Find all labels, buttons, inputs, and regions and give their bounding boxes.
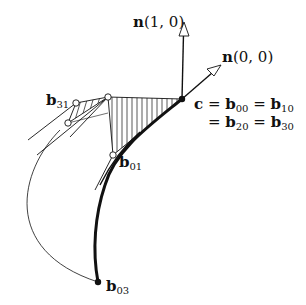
label-b03: b03 [106,277,129,296]
label-n00: n(0, 0) [222,48,273,66]
point-inner-control [65,120,71,126]
point-c [179,96,185,102]
point-b03 [95,279,101,285]
label-n10: n(1, 0) [133,13,184,31]
bezier-patch-diagram: n(1, 0) n(0, 0) c = b00 = b10 = b20 = b3… [0,0,306,305]
point-b01 [110,152,116,158]
hatched-triangle-main [112,90,177,160]
normal-arrow-n10 [179,22,189,99]
point-b31 [73,100,79,106]
boundary-curve-thin [27,130,98,282]
boundary-curve-thick [95,99,182,282]
label-b31: b31 [46,91,69,110]
label-c-equals-line2: = b20 = b30 [208,113,294,132]
normal-arrow-n00 [182,65,221,99]
label-b01: b01 [119,153,142,172]
control-edge [68,113,108,123]
label-c-equals-line1: c = b00 = b10 [194,95,294,114]
point-top-control [105,94,111,100]
main-triangle-outline [108,97,182,155]
